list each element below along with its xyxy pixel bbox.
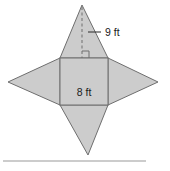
square-side-label: 8 ft: [77, 86, 92, 98]
left-triangle: [8, 58, 60, 105]
triangle-height-label: 9 ft: [105, 26, 120, 38]
bottom-triangle: [60, 105, 108, 155]
geometry-figure-container: 9 ft 8 ft: [0, 0, 170, 171]
right-triangle: [108, 58, 158, 105]
geometry-diagram: 9 ft 8 ft: [0, 0, 170, 171]
